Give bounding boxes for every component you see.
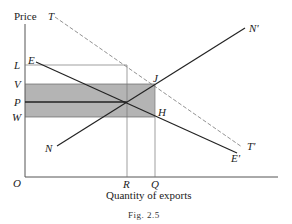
tick-L: L [13,59,20,71]
tick-P: P [13,96,21,108]
tick-V: V [14,78,22,90]
economics-diagram: Price T T' E E' N N' J H L V P W O R Q Q… [0,0,292,224]
label-N: N [44,142,53,154]
label-E: E [27,54,35,66]
label-T: T [48,10,55,22]
label-T-prime: T' [247,140,256,152]
x-axis-label: Quantity of exports [106,189,192,201]
curve-TT [55,17,242,147]
shaded-region [25,84,155,117]
y-axis-label: Price [14,10,37,22]
tick-W: W [12,111,22,123]
label-H: H [157,106,167,118]
figure-caption: Fig. 2.5 [128,210,160,220]
label-E-prime: E' [230,152,241,164]
origin-label: O [13,177,21,189]
label-N-prime: N' [248,22,259,34]
